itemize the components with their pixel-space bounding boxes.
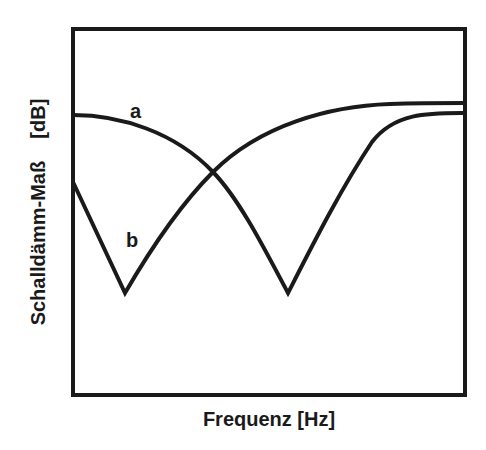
curve-b bbox=[73, 103, 465, 293]
plot-frame bbox=[73, 29, 465, 395]
curve-a bbox=[73, 113, 465, 293]
curve-a-label: a bbox=[130, 100, 142, 122]
chart: a b Frequenz [Hz] Schalldämm-Maß [dB] bbox=[0, 0, 486, 450]
x-axis-label: Frequenz [Hz] bbox=[72, 408, 466, 431]
y-axis-label: Schalldämm-Maß [dB] bbox=[27, 99, 50, 326]
curve-b-label: b bbox=[126, 229, 138, 251]
plot-area: a b bbox=[0, 0, 486, 450]
